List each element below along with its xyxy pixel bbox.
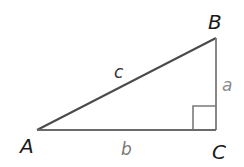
vertex-label-a: A [18,134,34,158]
side-label-a: a [222,75,232,95]
right-angle-marker [193,106,216,130]
side-label-c: c [114,62,124,82]
side-label-b: b [121,139,132,159]
side-c-hypotenuse [37,38,216,130]
vertex-label-b: B [208,10,222,34]
vertex-label-c: C [212,140,226,164]
right-triangle-diagram: A B C c a b [0,0,244,167]
